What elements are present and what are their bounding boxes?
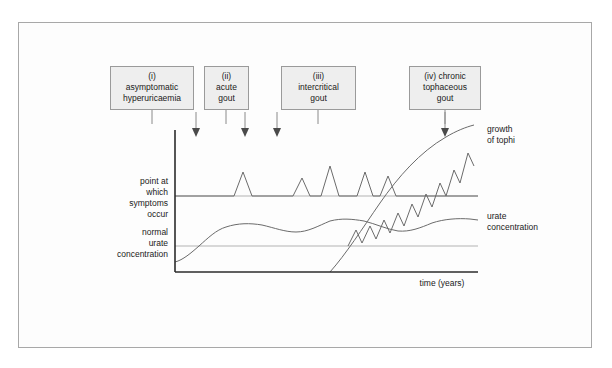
label-urate-concentration: urate concentration xyxy=(487,211,577,233)
stage-box-iv: (iv) chronic tophaceous gout xyxy=(409,66,481,110)
stage-box-i: (i) asymptomatic hyperuricaemia xyxy=(110,66,194,110)
axis-label-x: time (years) xyxy=(382,278,502,289)
label-growth-of-tophi: growth of tophi xyxy=(487,124,577,146)
label-normal-urate: normal urate concentration xyxy=(84,227,168,260)
label-symptoms-threshold: point at which symptoms occur xyxy=(84,176,168,220)
stage-box-ii: (ii) acute gout xyxy=(204,66,249,110)
stage-box-iii: (iii) intercritical gout xyxy=(281,66,356,110)
